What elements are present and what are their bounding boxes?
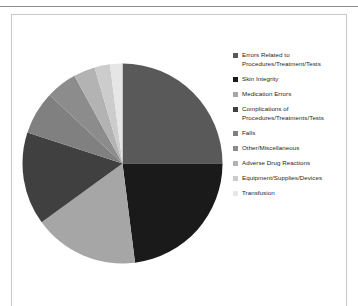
legend-item[interactable]: Errors Related toProcedures/Treatment/Te… [233,50,355,68]
pie-slice [123,164,223,263]
legend-item-label: Errors Related toProcedures/Treatment/Te… [242,50,321,68]
legend-item-label: Adverse Drug Reactions [242,158,310,167]
legend-item[interactable]: Complications ofProcedures/Treatments/Te… [233,104,355,122]
legend-item-label: Other/Miscellaneous [242,143,299,152]
legend-item-label: Transfusion [242,188,275,197]
pie-slice [123,64,223,164]
legend-swatch-icon [233,92,238,97]
legend-swatch-icon [233,191,238,196]
legend-item[interactable]: Other/Miscellaneous [233,143,355,152]
legend-item-label: Falls [242,128,255,137]
legend-item[interactable]: Falls [233,128,355,137]
legend-item-label: Skin Integrity [242,74,278,83]
legend-swatch-icon [233,53,238,58]
legend-item[interactable]: Equipment/Supplies/Devices [233,173,355,182]
pie-chart-graphic [22,63,223,264]
legend-item[interactable]: Adverse Drug Reactions [233,158,355,167]
page-root: Errors Related toProcedures/Treatment/Te… [0,0,358,306]
chart-legend: Errors Related toProcedures/Treatment/Te… [233,50,355,203]
legend-swatch-icon [233,107,238,112]
legend-swatch-icon [233,176,238,181]
legend-swatch-icon [233,77,238,82]
legend-item[interactable]: Transfusion [233,188,355,197]
legend-item-label: Complications ofProcedures/Treatments/Te… [242,104,324,122]
legend-swatch-icon [233,161,238,166]
legend-item[interactable]: Medication Errors [233,89,355,98]
pie-chart: Errors Related toProcedures/Treatment/Te… [0,0,358,306]
legend-item-label: Equipment/Supplies/Devices [242,173,322,182]
legend-item-label: Medication Errors [242,89,291,98]
legend-swatch-icon [233,146,238,151]
legend-swatch-icon [233,131,238,136]
legend-item[interactable]: Skin Integrity [233,74,355,83]
